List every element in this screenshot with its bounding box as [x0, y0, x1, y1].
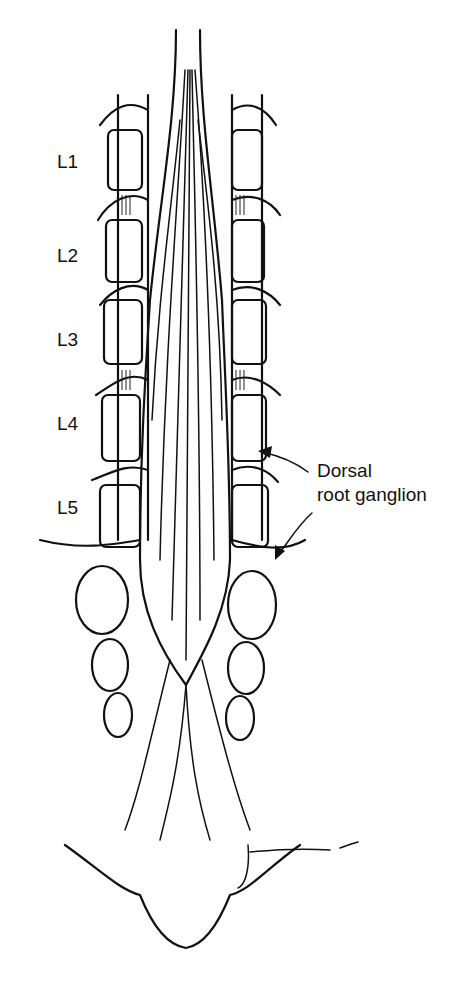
right-vertebral-column [226, 95, 276, 740]
vertebra-label-l4: L4 [57, 413, 78, 435]
left-vertebral-column [76, 95, 148, 737]
vertebra-label-l5: L5 [57, 497, 78, 519]
vertebra-label-l1: L1 [57, 151, 78, 173]
vertebra-label-l3: L3 [57, 329, 78, 351]
nerve-fibers [152, 70, 222, 660]
dural-sac-outline [140, 30, 230, 685]
vertebra-label-l2: L2 [57, 245, 78, 267]
ganglion-arrows [258, 446, 312, 560]
sacrum-outline [65, 845, 300, 948]
annotation-dorsal: Dorsal [317, 460, 372, 482]
annotation-root-ganglion: root ganglion [317, 484, 427, 506]
spine-illustration: L1 L2 L3 L4 L5 Dorsal root ganglion J. F… [0, 0, 466, 981]
cauda-equina-roots [125, 660, 250, 840]
